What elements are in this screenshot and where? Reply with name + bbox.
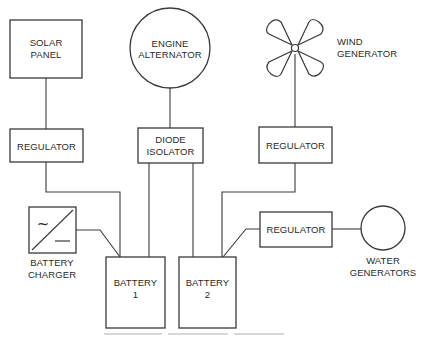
solar-panel-label-line1: SOLAR bbox=[30, 37, 63, 48]
battery-2-block: BATTERY 2 bbox=[179, 257, 236, 328]
ac-symbol: ~ bbox=[37, 215, 50, 233]
ac-dc-converter-icon: ~ bbox=[29, 207, 76, 253]
wind-generator-label-line2: GENERATOR bbox=[337, 48, 397, 59]
regulator-solar-block: REGULATOR bbox=[10, 129, 83, 162]
propeller-hub bbox=[292, 45, 299, 52]
battery-charger-label-line1: BATTERY bbox=[30, 257, 74, 268]
battery-1-block: BATTERY 1 bbox=[106, 257, 165, 328]
charging-system-diagram: SOLAR PANEL REGULATOR ENGINE ALTERNATOR … bbox=[0, 0, 428, 338]
battery-charger-label-line2: CHARGER bbox=[28, 269, 76, 280]
battery-2-label-line1: BATTERY bbox=[186, 277, 230, 288]
diode-isolator-label-line1: DIODE bbox=[155, 134, 186, 145]
engine-alternator-label-line2: ALTERNATOR bbox=[138, 49, 201, 60]
regulator-water-label: REGULATOR bbox=[266, 224, 325, 235]
water-generators-block: WATER GENERATORS bbox=[350, 206, 417, 278]
solar-panel-label-line2: PANEL bbox=[31, 49, 62, 60]
diode-isolator-block: DIODE ISOLATOR bbox=[138, 128, 203, 163]
solar-panel-block: SOLAR PANEL bbox=[10, 20, 82, 78]
wire-charger-to-battery1 bbox=[76, 230, 120, 257]
water-generator-circle bbox=[361, 206, 405, 250]
regulator-wind-label: REGULATOR bbox=[266, 140, 325, 151]
wind-generator-label-line1: WIND bbox=[337, 36, 363, 47]
diode-isolator-label-line2: ISOLATOR bbox=[147, 146, 195, 157]
wire-water-regulator-to-battery2 bbox=[223, 229, 260, 257]
battery-2-label-line2: 2 bbox=[205, 289, 210, 300]
water-generators-label-line2: GENERATORS bbox=[350, 267, 417, 278]
battery-1-label-line1: BATTERY bbox=[114, 277, 158, 288]
regulator-water-block: REGULATOR bbox=[260, 212, 332, 247]
regulator-solar-label: REGULATOR bbox=[17, 141, 76, 152]
battery-1-label-line2: 1 bbox=[133, 289, 138, 300]
faded-caption-strip bbox=[104, 333, 284, 335]
engine-alternator-block: ENGINE ALTERNATOR bbox=[130, 8, 210, 88]
battery-charger-block: ~ BATTERY CHARGER bbox=[28, 207, 76, 280]
water-generators-label-line1: WATER bbox=[366, 255, 400, 266]
regulator-wind-block: REGULATOR bbox=[259, 127, 332, 163]
engine-alternator-label-line1: ENGINE bbox=[151, 38, 188, 49]
wind-generator-block: WIND GENERATOR bbox=[267, 20, 398, 77]
